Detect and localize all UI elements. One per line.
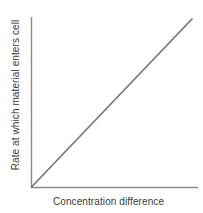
y-axis-label: Rate at which material enters cell	[10, 20, 21, 171]
chart-figure: Rate at which material enters cell Conce…	[0, 0, 203, 213]
y-axis-label-container: Rate at which material enters cell	[0, 0, 30, 190]
data-series-line	[32, 19, 193, 187]
x-axis-label: Concentration difference	[0, 196, 203, 207]
plot-area	[0, 0, 203, 213]
